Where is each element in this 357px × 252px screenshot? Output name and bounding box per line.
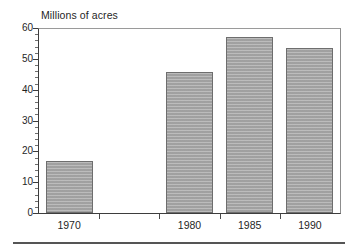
y-axis-minor-tick <box>35 170 38 171</box>
y-axis-minor-tick <box>35 139 38 140</box>
y-axis-ticks <box>0 28 38 214</box>
bars-layer <box>39 28 340 213</box>
y-axis-minor-tick <box>35 102 38 103</box>
y-axis-minor-tick <box>35 127 38 128</box>
y-axis-minor-tick <box>35 188 38 189</box>
y-axis-major-tick <box>33 59 38 60</box>
x-axis-tick-label: 1990 <box>298 219 321 232</box>
y-axis-minor-tick <box>35 65 38 66</box>
x-axis-labels: 1970198019851990 <box>38 219 341 235</box>
y-axis-minor-tick <box>35 114 38 115</box>
y-axis-minor-tick <box>35 207 38 208</box>
y-axis-minor-tick <box>35 84 38 85</box>
y-axis-minor-tick <box>35 96 38 97</box>
y-axis-minor-tick <box>35 108 38 109</box>
y-axis-major-tick <box>33 121 38 122</box>
bar-1980 <box>166 72 213 213</box>
y-axis-minor-tick <box>35 34 38 35</box>
y-axis-minor-tick <box>35 71 38 72</box>
y-axis-minor-tick <box>35 40 38 41</box>
y-axis-minor-tick <box>35 47 38 48</box>
bar-1970 <box>46 161 93 213</box>
y-axis-minor-tick <box>35 133 38 134</box>
x-axis-tick-label: 1980 <box>178 219 201 232</box>
y-axis-minor-tick <box>35 201 38 202</box>
y-axis-minor-tick <box>35 164 38 165</box>
x-axis-tick-label: 1970 <box>57 219 80 232</box>
y-axis-minor-tick <box>35 145 38 146</box>
y-axis-major-tick <box>33 28 38 29</box>
bottom-rule-divider <box>13 242 345 244</box>
y-axis-major-tick <box>33 182 38 183</box>
y-axis-minor-tick <box>35 158 38 159</box>
bar-1985 <box>226 37 273 213</box>
y-axis-major-tick <box>33 90 38 91</box>
y-axis-minor-tick <box>35 77 38 78</box>
y-axis-major-tick <box>33 151 38 152</box>
y-axis-minor-tick <box>35 176 38 177</box>
x-axis-tick-label: 1985 <box>238 219 261 232</box>
bar-chart-figure: Millions of acres 0102030405060 19701980… <box>0 0 357 252</box>
y-axis-minor-tick <box>35 53 38 54</box>
bar-1990 <box>286 48 333 213</box>
y-axis-minor-tick <box>35 195 38 196</box>
chart-title: Millions of acres <box>41 9 118 22</box>
